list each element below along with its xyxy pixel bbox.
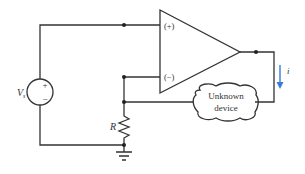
junction-dot-ground (122, 143, 126, 147)
wire-output (240, 52, 274, 102)
resistor-symbol (119, 113, 129, 145)
source-minus-label: − (42, 94, 47, 104)
circuit-diagram: + − Vs (+) (−) R Unknown device i (0, 0, 305, 174)
junction-dot-node (122, 100, 126, 104)
device-label-line2: device (214, 103, 237, 113)
unknown-device-cloud (193, 83, 258, 121)
source-plus-label: + (42, 80, 47, 90)
current-label: i (287, 66, 290, 76)
wire-source-to-plus (40, 25, 160, 79)
current-arrow-icon (277, 65, 284, 89)
resistor-label: R (109, 121, 116, 132)
junction-dot-minus (122, 75, 126, 79)
device-label-line1: Unknown (208, 91, 244, 101)
junction-dot-output (254, 50, 258, 54)
noninverting-label: (+) (164, 21, 175, 31)
source-label: Vs (17, 87, 26, 99)
voltage-source-symbol (27, 79, 53, 105)
ground-symbol (116, 145, 132, 160)
junction-dot-top (122, 23, 126, 27)
inverting-label: (−) (164, 72, 175, 82)
